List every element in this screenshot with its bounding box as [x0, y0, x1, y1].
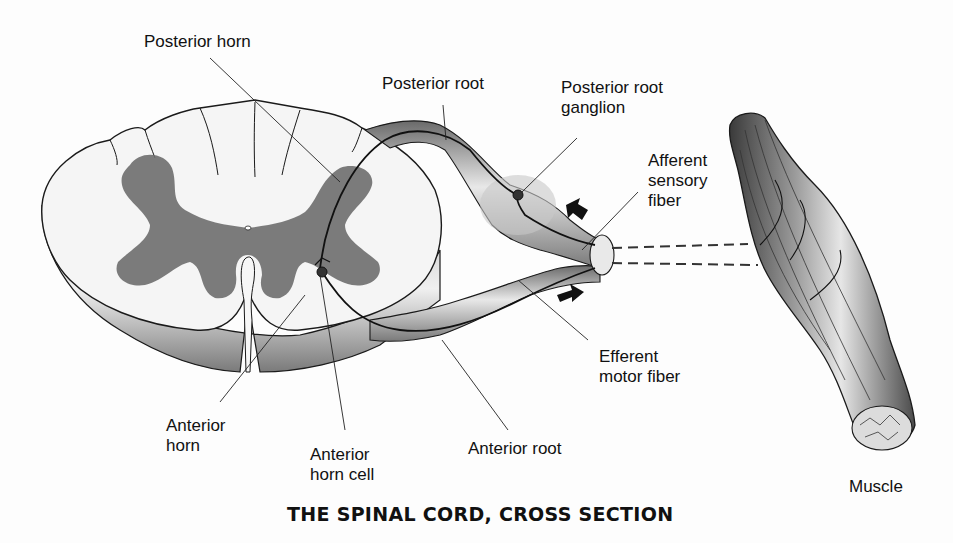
- label-posterior-root-ganglion: Posterior root ganglion: [561, 78, 663, 118]
- label-anterior-horn-cell: Anterior horn cell: [310, 445, 374, 485]
- sensory-dashed-line: [612, 244, 748, 248]
- label-posterior-horn: Posterior horn: [144, 32, 251, 52]
- anterior-horn-cell-body: [317, 267, 327, 277]
- label-posterior-root: Posterior root: [382, 74, 484, 94]
- afferent-direction-arrow-icon: [566, 198, 588, 220]
- label-muscle: Muscle: [849, 477, 903, 497]
- label-anterior-horn: Anterior horn: [166, 416, 226, 456]
- muscle-illustration: [730, 113, 915, 450]
- figure-title: THE SPINAL CORD, CROSS SECTION: [287, 503, 673, 525]
- spinal-cord-diagram: Posterior horn Posterior root Posterior …: [0, 0, 953, 543]
- motor-dashed-line: [612, 263, 758, 265]
- label-afferent-sensory-fiber: Afferent sensory fiber: [648, 151, 708, 211]
- ganglion-cell-body: [513, 190, 523, 200]
- label-efferent-motor-fiber: Efferent motor fiber: [599, 347, 680, 387]
- label-anterior-root: Anterior root: [468, 439, 562, 459]
